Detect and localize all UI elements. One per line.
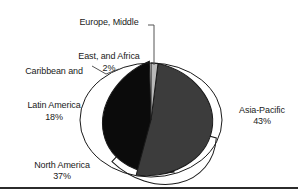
- chart-plot-area: Europe, Middle East, and Africa 2% Carib…: [0, 0, 298, 193]
- slice-value-asia-pacific: 43%: [227, 116, 297, 128]
- pie-chart-figure: Europe, Middle East, and Africa 2% Carib…: [0, 0, 298, 193]
- bottom-divider: [0, 187, 298, 189]
- slice-value-caribbean: 18%: [2, 112, 106, 124]
- slice-value-north-america: 37%: [8, 171, 116, 183]
- slice-label-caribbean-and-latin-america: Caribbean and Latin America 18%: [2, 54, 106, 135]
- slice-label-north-america-line1: North America: [34, 160, 90, 170]
- slice-label-asia-line1: Asia-Pacific: [239, 105, 285, 115]
- slice-label-caribbean-line2: Latin America: [27, 100, 80, 110]
- slice-label-caribbean-line1: Caribbean and: [25, 66, 83, 76]
- slice-label-asia-pacific: Asia-Pacific 43%: [227, 93, 297, 139]
- slice-label-emea-line1: Europe, Middle: [79, 17, 138, 27]
